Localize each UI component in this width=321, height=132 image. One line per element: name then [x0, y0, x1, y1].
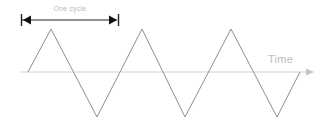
- time-axis-arrowhead-icon: [306, 69, 314, 76]
- time-axis-label: Time: [268, 53, 293, 65]
- one-cycle-label: One cycle: [54, 5, 87, 13]
- one-cycle-left-arrowhead-icon: [23, 16, 31, 25]
- one-cycle-right-arrowhead-icon: [109, 16, 117, 25]
- triangle-wave-figure: One cycle Time: [0, 0, 321, 132]
- triangle-waveform: [28, 29, 300, 117]
